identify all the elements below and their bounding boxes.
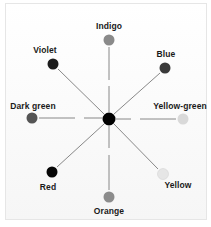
label-orange: Orange bbox=[94, 206, 124, 216]
line-yellow bbox=[114, 124, 158, 169]
label-yellow-green: Yellow-green bbox=[153, 101, 207, 111]
node-violet bbox=[48, 59, 59, 70]
node-dark-green bbox=[27, 113, 38, 124]
color-star-diagram bbox=[0, 0, 211, 227]
label-red: Red bbox=[40, 182, 56, 192]
nodes bbox=[27, 35, 189, 203]
node-indigo bbox=[104, 35, 115, 46]
label-indigo: Indigo bbox=[96, 21, 122, 31]
line-red bbox=[57, 124, 104, 167]
label-violet: Violet bbox=[33, 45, 57, 55]
label-blue: Blue bbox=[157, 49, 176, 59]
label-yellow: Yellow bbox=[164, 180, 191, 190]
node-yellow-green bbox=[178, 114, 189, 125]
node-orange bbox=[104, 192, 115, 203]
node-blue bbox=[160, 63, 171, 74]
node-yellow bbox=[158, 169, 169, 180]
node-red bbox=[47, 167, 58, 178]
center-node bbox=[103, 113, 116, 126]
line-violet bbox=[58, 69, 104, 114]
label-dark-green: Dark green bbox=[10, 101, 55, 111]
